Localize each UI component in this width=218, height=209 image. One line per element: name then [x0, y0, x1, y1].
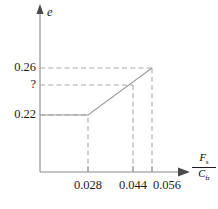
chart-figure: e 0.26 ? 0.22 0.028 0.044 0.056 Fs Cfr [0, 0, 218, 209]
y-tick-label-026: 0.26 [2, 61, 36, 74]
x-axis-group [40, 168, 190, 177]
x-axis-arrow-icon [178, 168, 190, 177]
horizontal-guide-lines [40, 68, 152, 115]
x-tick-label-0056: 0.056 [144, 179, 190, 192]
vertical-guide-lines [88, 68, 152, 172]
y-tick-label-022: 0.22 [2, 108, 36, 121]
y-axis-group [36, 4, 43, 172]
x-tick-marks [88, 166, 152, 172]
y-axis-label: e [47, 6, 53, 19]
y-tick-label-unknown: ? [2, 78, 36, 91]
chart-canvas [0, 0, 218, 209]
x-tick-label-0028: 0.028 [64, 179, 112, 192]
void-ratio-polyline [40, 68, 152, 115]
x-axis-numerator-subscript: s [206, 158, 209, 166]
x-axis-denominator-subscript: fr [205, 175, 210, 183]
x-axis-denominator: Cfr [192, 168, 216, 182]
y-axis-arrow-icon [36, 4, 43, 14]
x-axis-numerator: Fs [192, 152, 216, 166]
data-series-curve [40, 68, 152, 115]
x-axis-label-fraction: Fs Cfr [192, 152, 216, 183]
